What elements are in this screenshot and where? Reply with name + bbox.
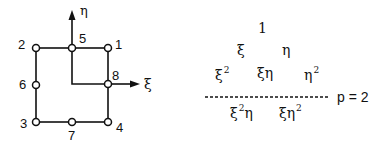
term-xi: ξ	[237, 43, 245, 57]
xi-arrow-icon	[130, 81, 140, 88]
eta-axis-label: η	[80, 4, 88, 17]
node-label-5: 5	[79, 32, 86, 45]
xi-axis-label: ξ	[144, 77, 152, 91]
term-xieta: ξη	[257, 66, 273, 80]
term-eta2: η2	[304, 66, 319, 82]
node-label-3: 3	[20, 117, 27, 130]
node-label-8: 8	[112, 69, 119, 82]
eta-arrow-icon	[69, 10, 76, 20]
node-label-7: 7	[68, 129, 75, 142]
node-label-1: 1	[115, 38, 122, 51]
term-xieta2: ξη2	[279, 104, 302, 120]
node-label-6: 6	[19, 78, 26, 91]
term-xi2eta: ξ2η	[230, 104, 253, 120]
element-diagram	[0, 0, 383, 148]
term-eta: η	[282, 43, 290, 57]
term-xi2: ξ2	[215, 66, 229, 82]
degree-label: p = 2	[337, 90, 369, 104]
node-label-4: 4	[116, 121, 123, 134]
term-1: 1	[258, 21, 267, 35]
node-label-2: 2	[18, 38, 25, 51]
